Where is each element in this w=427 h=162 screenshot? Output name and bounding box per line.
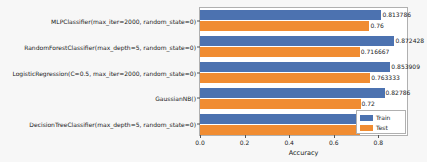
bar-value-label: 0.76 [370,21,383,31]
bar-train [200,10,381,20]
y-axis-tick-label: MLPClassifier(max_iter=2000, random_stat… [51,17,196,24]
matplotlib-figure: DecisionTreeClassifier(max_depth=5, rand… [0,0,427,162]
x-axis-tick-label: 0.6 [329,139,339,146]
y-axis-tick-label: LogisticRegression(C=0.5, max_iter=2000,… [12,69,196,76]
bar-value-label: 0.813786 [382,10,411,20]
x-axis-tick-label: 0.8 [374,139,384,146]
x-axis-tick [245,135,246,138]
x-axis-tick [289,135,290,138]
legend-label-test: Test [376,123,388,132]
legend-item-test: Test [360,123,402,132]
y-axis-tick-label: GaussianNB() [155,95,196,102]
x-axis-tick [200,135,201,138]
x-axis-tick-label: 0.4 [284,139,294,146]
legend-swatch-train-icon [360,115,373,121]
x-axis-tick-label: 0.0 [195,139,205,146]
x-axis-tick [334,135,335,138]
x-axis-tick-label: 0.2 [240,139,250,146]
bar-test [200,21,369,31]
chart-legend[interactable]: Train Test [356,110,406,134]
x-axis-label: Accuracy [199,149,408,157]
legend-item-train: Train [360,113,402,122]
legend-swatch-test-icon [360,125,373,131]
legend-label-train: Train [376,113,390,122]
x-axis-tick [378,135,379,138]
y-axis-tick-label: DecisionTreeClassifier(max_depth=5, rand… [29,121,196,128]
y-axis-tick-label: RandomForestClassifier(max_depth=5, rand… [24,43,196,50]
